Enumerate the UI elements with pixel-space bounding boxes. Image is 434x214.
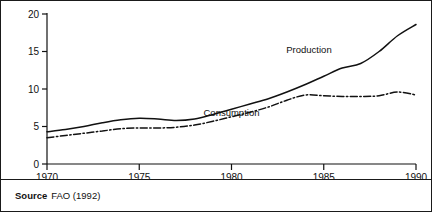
y-tick-label-10: 10	[28, 84, 40, 95]
series-annotation-consumption: Consumption	[204, 107, 260, 118]
y-tick-label-0: 0	[33, 159, 39, 170]
source-note: Source FAO (1992)	[1, 179, 432, 211]
line-chart-svg: 0510152019701975198019851990ProductionCo…	[1, 1, 432, 179]
y-tick-label-15: 15	[28, 46, 40, 57]
x-tick-label-1990: 1990	[405, 172, 428, 179]
y-tick-label-5: 5	[33, 121, 39, 132]
x-tick-label-1985: 1985	[313, 172, 336, 179]
x-tick-label-1970: 1970	[36, 172, 59, 179]
x-tick-label-1980: 1980	[220, 172, 243, 179]
chart-plot-area: 0510152019701975198019851990ProductionCo…	[1, 1, 432, 179]
source-label: Source	[15, 190, 47, 201]
series-annotation-production: Production	[286, 44, 331, 55]
source-value: FAO (1992)	[51, 190, 100, 201]
x-tick-label-1975: 1975	[128, 172, 151, 179]
y-tick-label-20: 20	[28, 9, 40, 20]
chart-figure: 0510152019701975198019851990ProductionCo…	[0, 0, 432, 212]
